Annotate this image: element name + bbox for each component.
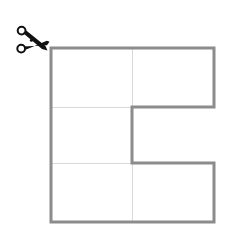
figure-container xyxy=(0,0,234,237)
scissors-pivot xyxy=(30,39,33,42)
shape-diagram xyxy=(0,0,234,237)
